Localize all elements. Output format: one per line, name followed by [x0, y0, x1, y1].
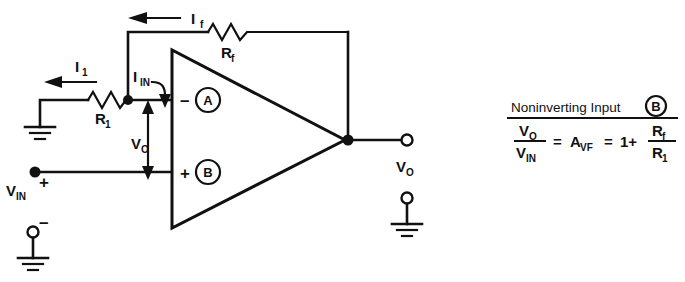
label-if-sub: f	[200, 19, 204, 30]
circuit-figure: I f R f I 1 R 1 I IN V O V IN +	[0, 0, 685, 282]
equation-den2-sub: 1	[662, 153, 668, 164]
equation-equals-2: =	[604, 133, 613, 150]
ground-icon-r1	[25, 127, 55, 139]
junction-dot-icon-summing	[123, 95, 133, 105]
voltage-arrow-icon-vo	[142, 100, 154, 180]
equation-one-plus: 1+	[620, 133, 637, 150]
label-vin-minus: –	[39, 213, 48, 232]
label-inverting-sign: –	[180, 91, 189, 110]
label-i1: I	[75, 58, 79, 75]
ground-icon-output	[392, 224, 422, 236]
label-vo-diff-sub: O	[141, 144, 149, 155]
opamp-triangle-icon	[172, 50, 345, 228]
open-terminal-icon-out-ref	[402, 193, 413, 204]
label-i1-sub: 1	[82, 67, 88, 78]
gain-equation-block: Noninverting Input B V O V IN = A VF = 1…	[507, 96, 678, 164]
junction-dot-icon-output	[343, 135, 354, 146]
label-vo-out-sub: O	[406, 167, 414, 178]
open-terminal-icon-vin-minus	[28, 227, 39, 238]
equation-heading-circle-label: B	[651, 99, 660, 114]
label-vin: V	[6, 182, 16, 199]
resistor-icon-r1	[88, 92, 128, 108]
label-rf-sub: f	[231, 53, 235, 64]
schematic-canvas: I f R f I 1 R 1 I IN V O V IN +	[0, 0, 685, 282]
current-arrow-icon-i1	[44, 76, 96, 88]
current-arrow-icon-if	[128, 12, 180, 24]
equation-num1: V	[519, 122, 529, 139]
equation-equals-1: =	[553, 133, 562, 150]
i1-arrow-head	[44, 76, 62, 88]
resistor-icon-rf	[208, 24, 348, 40]
label-r1-sub: 1	[105, 119, 111, 130]
label-vin-sub: IN	[16, 191, 26, 202]
open-terminal-icon-vo	[402, 135, 413, 146]
label-noninverting-sign: +	[180, 164, 190, 183]
equation-gain-symbol-sub: VF	[580, 142, 593, 153]
label-node-b: B	[203, 165, 212, 180]
label-vo-diff: V	[131, 135, 141, 152]
equation-heading: Noninverting Input	[511, 100, 621, 115]
label-vo-out: V	[396, 158, 406, 175]
equation-den1-sub: IN	[526, 153, 536, 164]
iin-arrow-curve	[152, 82, 165, 96]
label-iin-sub: IN	[140, 77, 150, 88]
vo-arrow-head-up	[142, 100, 154, 114]
label-if: I	[191, 10, 195, 27]
equation-den1: V	[516, 144, 526, 161]
ground-icon-vin	[18, 258, 48, 270]
label-node-a: A	[203, 93, 213, 108]
current-arrow-icon-iin	[152, 82, 171, 108]
label-iin: I	[133, 68, 137, 85]
r1-ground-wire	[40, 100, 88, 127]
label-vin-plus: +	[39, 173, 49, 192]
if-arrow-head	[128, 12, 147, 24]
